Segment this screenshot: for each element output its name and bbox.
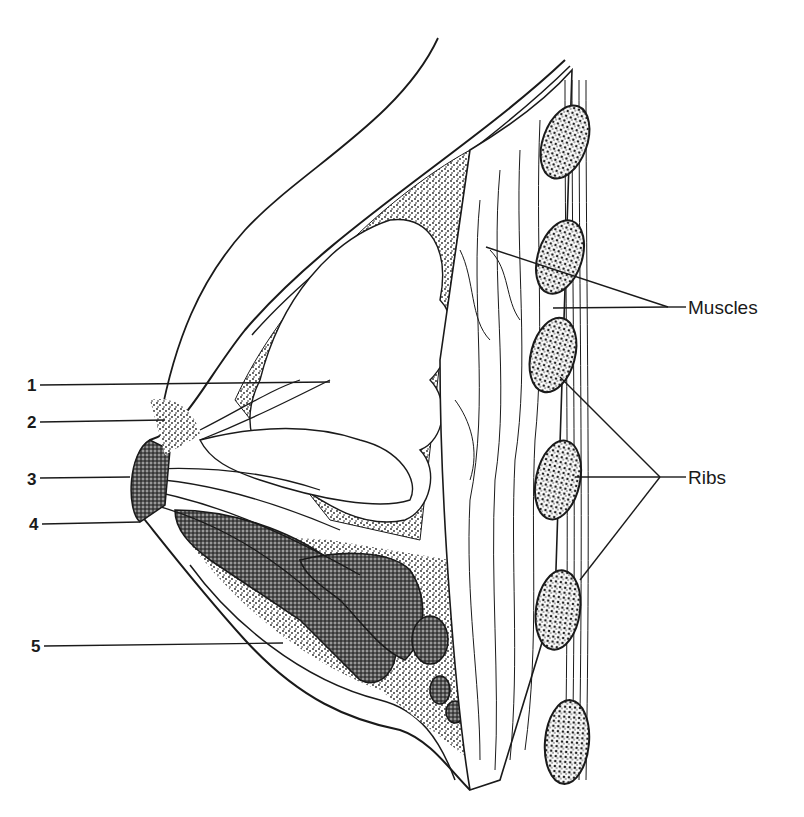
label-4: 4 <box>29 516 38 533</box>
anatomy-illustration <box>0 0 804 817</box>
label-2: 2 <box>27 414 36 431</box>
label-5: 5 <box>31 638 40 655</box>
label-1: 1 <box>27 377 36 394</box>
label-ribs: Ribs <box>688 468 726 487</box>
label-muscles: Muscles <box>688 298 758 317</box>
breast-anatomy-diagram: 1 2 3 4 5 Muscles Ribs <box>0 0 804 817</box>
label-3: 3 <box>27 471 36 488</box>
